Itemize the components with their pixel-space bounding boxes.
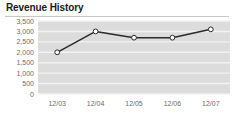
line-chart-svg: 3,5003,0002,5002,0001,5001,0005000 12/03… [0,19,234,115]
x-axis-tick-label: 12/05 [125,100,143,107]
chart-plot-container: 3,5003,0002,5002,0001,5001,0005000 12/03… [0,19,234,115]
y-axis-tick-label: 3,000 [16,28,34,35]
data-point-marker [93,29,98,34]
x-axis-tick-label: 12/06 [164,100,182,107]
data-point-marker [55,50,60,55]
y-axis-tick-label: 0 [30,91,34,98]
title-divider [5,16,229,17]
y-axis-tick-label: 500 [22,80,34,87]
y-axis-labels: 3,5003,0002,5002,0001,5001,0005000 [16,19,34,98]
data-point-marker [132,35,137,40]
x-axis-tick-label: 12/07 [202,100,220,107]
y-axis-tick-label: 1,500 [16,59,34,66]
x-axis-tick-label: 12/04 [87,100,105,107]
page-title: Revenue History [6,2,83,13]
y-axis-tick-label: 2,500 [16,38,34,45]
x-axis-labels: 12/0312/0412/0512/0612/07 [48,100,219,107]
y-axis-tick-label: 3,500 [16,19,34,25]
data-point-marker [170,35,175,40]
y-axis-tick-label: 2,000 [16,49,34,56]
y-axis-tick-label: 1,000 [16,70,34,77]
x-axis-tick-label: 12/03 [48,100,66,107]
data-point-marker [208,27,213,32]
revenue-history-chart-widget: Revenue History 3,5003,0002,5002,0001,50… [0,0,234,115]
